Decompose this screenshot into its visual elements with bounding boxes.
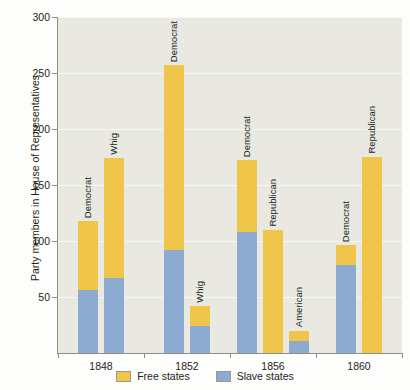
- bar-label-republican: Republican: [362, 106, 382, 154]
- bar-segment-slave-states: [190, 326, 210, 353]
- bar-segment-free-states: [164, 65, 184, 250]
- gridline: [58, 17, 402, 18]
- bar-segment-slave-states: [164, 250, 184, 353]
- bar-segment-slave-states: [237, 232, 257, 353]
- y-tick-label: 300: [10, 11, 50, 23]
- bar-1852-whig: [190, 306, 210, 353]
- bar-segment-slave-states: [104, 278, 124, 353]
- bar-1856-american: [289, 331, 309, 353]
- bar-segment-slave-states: [78, 290, 98, 353]
- bar-segment-free-states: [336, 245, 356, 264]
- bar-1848-whig: [104, 158, 124, 353]
- x-group-separator: [316, 353, 317, 358]
- bar-1860-democrat: [336, 245, 356, 353]
- bar-label-democrat: Democrat: [164, 21, 184, 62]
- slave-states-swatch: [216, 371, 231, 382]
- y-axis-title: Party members in House of Representative…: [29, 48, 41, 308]
- legend-label: Free states: [137, 370, 190, 382]
- y-tick-mark: [52, 129, 58, 130]
- bar-label-democrat: Democrat: [237, 116, 257, 157]
- bar-label-democrat: Democrat: [78, 177, 98, 218]
- legend-label: Slave states: [237, 370, 294, 382]
- bar-segment-slave-states: [289, 341, 309, 353]
- y-tick-mark: [52, 297, 58, 298]
- y-tick-label: 100: [10, 235, 50, 247]
- bar-segment-free-states: [104, 158, 124, 278]
- x-group-separator: [402, 353, 403, 358]
- legend-item-slave-states: Slave states: [216, 370, 294, 382]
- bar-label-republican: Republican: [263, 179, 283, 227]
- bar-segment-free-states: [362, 157, 382, 353]
- bar-segment-free-states: [78, 221, 98, 290]
- x-group-separator: [144, 353, 145, 358]
- chart-legend: Free statesSlave states: [0, 370, 410, 382]
- gridline: [58, 129, 402, 130]
- bar-1860-republican: [362, 157, 382, 353]
- chart-figure: Party members in House of Representative…: [0, 0, 410, 390]
- gridline: [58, 73, 402, 74]
- bar-segment-free-states: [237, 160, 257, 232]
- bar-label-whig: Whig: [104, 133, 124, 155]
- bar-segment-free-states: [263, 230, 283, 353]
- free-states-swatch: [116, 371, 131, 382]
- legend-item-free-states: Free states: [116, 370, 190, 382]
- y-tick-mark: [52, 185, 58, 186]
- bar-label-american: American: [289, 287, 309, 327]
- y-tick-mark: [52, 73, 58, 74]
- bar-segment-free-states: [289, 331, 309, 341]
- y-tick-label: 50: [10, 291, 50, 303]
- y-tick-mark: [52, 241, 58, 242]
- y-tick-label: 200: [10, 123, 50, 135]
- y-tick-label: 250: [10, 67, 50, 79]
- x-group-separator: [58, 353, 59, 358]
- bar-label-whig: Whig: [190, 281, 210, 303]
- bar-segment-free-states: [190, 306, 210, 326]
- x-group-separator: [230, 353, 231, 358]
- bar-1852-democrat: [164, 65, 184, 353]
- y-tick-label: 150: [10, 179, 50, 191]
- bar-label-democrat: Democrat: [336, 201, 356, 242]
- bar-1856-democrat: [237, 160, 257, 353]
- y-tick-mark: [52, 17, 58, 18]
- bar-1848-democrat: [78, 221, 98, 353]
- bar-1856-republican: [263, 230, 283, 353]
- bar-segment-slave-states: [336, 265, 356, 353]
